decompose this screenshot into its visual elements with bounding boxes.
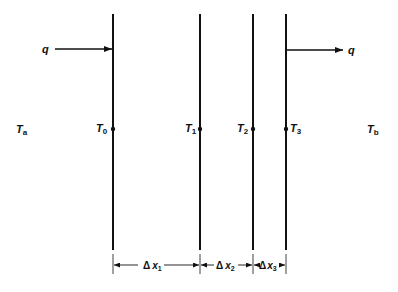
node-dot-3 [284,127,288,131]
dim-label-1: Δx1 [143,260,162,272]
dim-label-3: Δx3 [259,260,277,272]
ambient-right-label: Tb [367,123,379,137]
node-dot-1 [198,127,202,131]
ambient-left-label: Ta [16,123,28,137]
composite-wall-diagram: q q Ta Tb T0 T1 T2 T3 Δx1 Δx2 Δx3 [0,0,398,292]
heat-out-label: q [348,44,355,56]
dim-label-2: Δx2 [216,260,235,272]
surface-temp-label-0: T0 [96,122,108,136]
surface-temp-label-1: T1 [185,122,197,136]
heat-in-label: q [42,43,49,55]
node-dot-2 [251,127,255,131]
surface-temp-label-3: T3 [290,122,302,136]
node-dot-0 [111,127,115,131]
surface-temp-label-2: T2 [237,122,249,136]
